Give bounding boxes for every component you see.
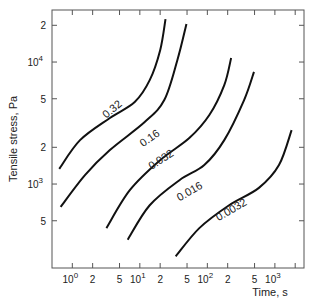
- x-tick-label: 101: [130, 271, 146, 285]
- x-tick-label: 5: [252, 274, 258, 285]
- y-axis-title: Tensile stress, Pa: [7, 95, 19, 182]
- curve-0.16: [61, 24, 187, 207]
- y-tick-label: 2: [40, 142, 46, 153]
- y-tick-label: 2: [40, 20, 46, 31]
- x-tick-label: 2: [90, 274, 96, 285]
- x-tick-label: 103: [265, 271, 281, 285]
- y-tick-label: 103: [27, 176, 43, 190]
- chart-container: 100251012510225103 5103251042 0.320.160.…: [0, 0, 311, 308]
- stress-time-plot: 100251012510225103 5103251042 0.320.160.…: [0, 0, 311, 308]
- y-tick-label: 104: [27, 54, 43, 68]
- x-tick-label: 100: [63, 271, 79, 285]
- x-tick-label: 2: [225, 274, 231, 285]
- y-tick-label: 5: [40, 216, 46, 227]
- curve-label: 0.032: [146, 147, 176, 172]
- plot-frame: [52, 10, 304, 268]
- curve-0.016: [128, 72, 254, 240]
- curve-label: 0.16: [137, 127, 161, 149]
- curve-labels: 0.320.160.0320.0160.0032: [100, 97, 249, 223]
- curve-label: 0.0032: [213, 196, 248, 223]
- x-axis-title: Time, s: [252, 286, 288, 298]
- curve-label: 0.016: [174, 179, 204, 203]
- x-tick-label: 2: [157, 274, 163, 285]
- curve-0.32: [59, 19, 165, 169]
- x-tick-label: 102: [198, 271, 214, 285]
- curves: [59, 19, 291, 256]
- x-tick-label: 5: [117, 274, 123, 285]
- x-tick-label: 5: [184, 274, 190, 285]
- curve-0.032: [106, 58, 231, 228]
- y-tick-label: 5: [40, 94, 46, 105]
